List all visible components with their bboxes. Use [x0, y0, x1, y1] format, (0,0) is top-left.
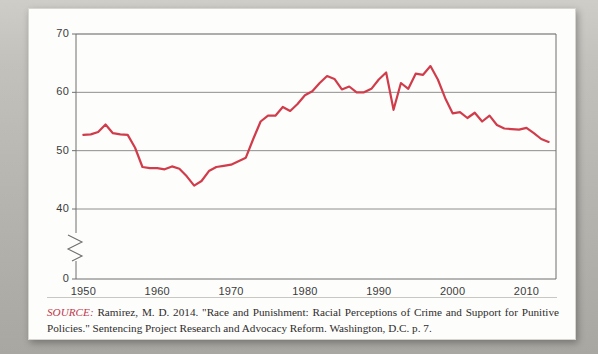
x-tick-label: 1990 — [357, 285, 401, 297]
figure-caption: SOURCE: Ramirez, M. D. 2014. "Race and P… — [47, 305, 559, 336]
x-tick-label: 2000 — [431, 285, 475, 297]
caption-source-text: Ramirez, M. D. 2014. "Race and Punishmen… — [47, 306, 559, 334]
caption-divider — [47, 297, 557, 298]
figure-container: 040506070 1950196019701980199020002010 S… — [0, 0, 598, 354]
chart-plot-area: 040506070 1950196019701980199020002010 — [29, 9, 575, 297]
x-tick-label: 1970 — [209, 285, 253, 297]
y-tick-label: 0 — [35, 272, 69, 284]
y-tick-label: 50 — [35, 144, 69, 156]
line-chart-svg — [29, 9, 575, 297]
y-tick-label: 60 — [35, 85, 69, 97]
x-tick-label: 1950 — [61, 285, 105, 297]
y-tick-label: 40 — [35, 202, 69, 214]
x-tick-label: 2010 — [504, 285, 548, 297]
figure-card: 040506070 1950196019701980199020002010 S… — [28, 8, 576, 340]
y-tick-label: 70 — [35, 27, 69, 39]
x-tick-label: 1960 — [135, 285, 179, 297]
x-tick-label: 1980 — [283, 285, 327, 297]
caption-source-label: SOURCE: — [47, 306, 94, 318]
